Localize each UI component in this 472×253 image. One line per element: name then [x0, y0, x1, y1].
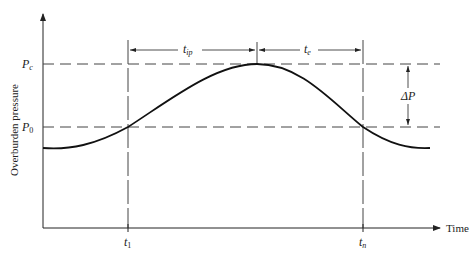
- y-axis-label: Overburden pressure: [8, 84, 20, 176]
- te-label: te: [304, 42, 311, 57]
- t1-label: t1: [124, 235, 131, 250]
- tip-label: tip: [183, 42, 193, 57]
- delta-p-label: ΔP: [400, 89, 416, 103]
- p0-label: P0: [21, 120, 33, 135]
- x-axis-label: Time: [446, 222, 469, 234]
- overburden-pressure-diagram: Overburden pressure Time Pc P0 t1 tn tip…: [0, 0, 472, 253]
- pressure-curve: [43, 64, 430, 148]
- pc-label: Pc: [21, 57, 33, 72]
- tn-label: tn: [359, 235, 366, 250]
